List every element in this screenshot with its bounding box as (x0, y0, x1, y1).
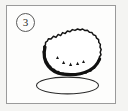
ground-ellipse (37, 77, 99, 94)
figure-panel: 3 (0, 0, 128, 111)
figure-index-badge: 3 (16, 13, 35, 32)
figure-frame: 3 (6, 5, 116, 104)
